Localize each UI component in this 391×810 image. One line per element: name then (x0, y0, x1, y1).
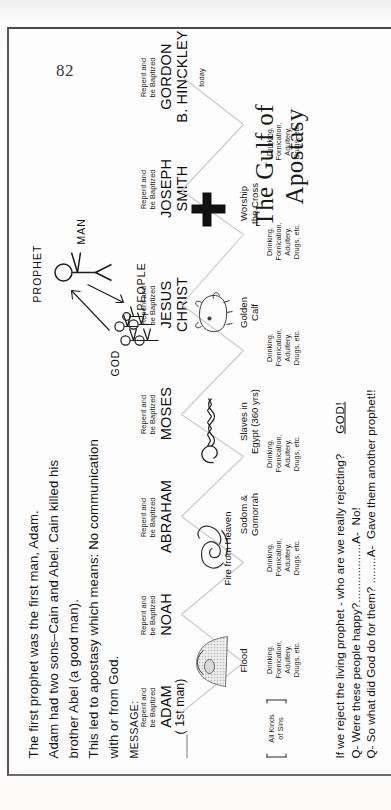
sins-line-3: Adultery, (283, 630, 292, 688)
prophet-name: MOSES (157, 374, 173, 452)
page-title-line1: The Gulf of (249, 36, 279, 226)
intro-line-4: This led to apostasy which means: No com… (83, 328, 103, 758)
sins-bracket-line2: of Sins (276, 704, 285, 752)
sins-line-2: Fornication, (274, 528, 283, 586)
all-kinds-of-sins-bracket: All Kinds of Sins (267, 704, 285, 752)
event-label-line1: Sodom & (237, 476, 248, 552)
sins-line-4: Drugs, etc. (292, 630, 301, 688)
repent-line-2: be Baptized (148, 678, 157, 736)
people-label: PEOPLE (135, 262, 146, 310)
event-label-line1: Flood (237, 630, 248, 690)
question-row-2: Q- So what did God do for them? ........… (362, 42, 378, 758)
page-title-line2: Apostasy (279, 36, 309, 204)
sins-list-1: Drinking, Fornication, Adultery, Drugs, … (265, 630, 301, 688)
prophet-name: JESUS (157, 266, 173, 342)
sins-line-4: Drugs, etc. (292, 318, 301, 376)
intro-line-3: brother Abel (a good man). (63, 328, 83, 758)
prophet-noah: NOAH (157, 576, 173, 652)
event-flood: Flood (237, 630, 248, 690)
page-title: The Gulf of Apostasy (249, 36, 308, 226)
repent-line-2: be Baptized (148, 48, 157, 106)
repent-label-noah: Repent and be Baptized (139, 586, 156, 644)
intro-line-5: with or from God. (103, 328, 123, 758)
sins-line-2: Fornication, (274, 630, 283, 688)
flood-illustration-icon (189, 630, 233, 690)
event-sodom-gomorrah: Sodom & Gomorrah (237, 476, 259, 552)
event-label-line1: Slaves in (237, 378, 248, 464)
prophet-name: ADAM (157, 668, 173, 744)
event-label-line1: Fire from Heaven (221, 492, 232, 604)
intro-line-1: The first prophet was the first man, Ada… (23, 328, 43, 758)
sins-line-3: Adultery, (283, 318, 292, 376)
sins-list-2: Drinking, Fornication, Adultery, Drugs, … (265, 528, 301, 586)
event-label-line1: Worship (237, 172, 248, 234)
repent-line-1: Repent and (139, 48, 148, 106)
question-2-dots: ........ (363, 557, 376, 586)
event-label-line2: Egypt (360 yrs) (248, 378, 259, 464)
prophet-label: PROPHET (31, 244, 42, 302)
intro-line-2: Adam had two sons–Cain and Abel. Cain ki… (43, 328, 63, 758)
sins-line-4: Drugs, etc. (292, 528, 301, 586)
question-intro: If we reject the living prophet - who ar… (332, 453, 345, 758)
event-label-line1: Golden (237, 282, 248, 342)
sins-line-2: Fornication, (274, 424, 283, 482)
repent-line-1: Repent and (139, 586, 148, 644)
repent-line-2: be Baptized (148, 160, 157, 218)
repent-label-adam: Repent and be Baptized (139, 678, 156, 736)
question-block: If we reject the living prophet - who ar… (331, 42, 378, 758)
prophet-moses: MOSES (157, 374, 173, 452)
god-label: GOD (109, 349, 120, 376)
page-frame: 82 The first prophet was the first man, … (7, 27, 391, 776)
sins-line-3: Adultery, (283, 424, 292, 482)
event-label-line2: Calf (248, 282, 259, 342)
repent-line-2: be Baptized (148, 385, 157, 443)
golden-calf-illustration-icon (189, 282, 233, 342)
prophet-name: ABRAHAM (157, 464, 173, 568)
repent-line-1: Repent and (139, 488, 148, 546)
question-2: Q- So what did God do for them? (363, 586, 376, 758)
cross-symbol-icon (191, 192, 225, 226)
prophet-name: JOSEPH (157, 150, 173, 226)
repent-label-moses: Repent and be Baptized (139, 385, 156, 443)
sins-list-3: Drinking, Fornication, Adultery, Drugs, … (265, 424, 301, 482)
sins-line-4: Drugs, etc. (292, 424, 301, 482)
sins-list-4: Drinking, Fornication, Adultery, Drugs, … (265, 318, 301, 376)
intro-paragraph: The first prophet was the first man, Ada… (23, 328, 123, 758)
man-label: MAN (75, 218, 86, 244)
scanned-page-background: 82 The first prophet was the first man, … (0, 0, 391, 810)
answer-1: A- No! (348, 507, 361, 543)
prophet-name: NOAH (157, 576, 173, 652)
god-answer: GOD! (332, 401, 345, 433)
question-row-1: Q- Were these people happy?.............… (347, 42, 363, 758)
event-fire-from-heaven: Fire from Heaven (221, 492, 232, 604)
question-intro-row: If we reject the living prophet - who ar… (331, 42, 347, 758)
question-1-dots: .................. (348, 543, 361, 602)
repent-line-2: be Baptized (148, 276, 157, 334)
sins-line-3: Adultery, (283, 528, 292, 586)
prophet-name: GORDON (157, 28, 173, 124)
message-label: MESSAGE: (127, 700, 139, 758)
sins-line-2: Fornication, (274, 318, 283, 376)
repent-line-2: be Baptized (148, 586, 157, 644)
repent-line-2: be Baptized (148, 488, 157, 546)
question-1: Q- Were these people happy? (348, 602, 361, 758)
event-label-line2: Gomorrah (248, 476, 259, 552)
repent-label-abraham: Repent and be Baptized (139, 488, 156, 546)
repent-line-1: Repent and (139, 678, 148, 736)
event-golden-calf: Golden Calf (237, 282, 259, 342)
slaves-in-egypt-illustration-icon (191, 392, 231, 468)
repent-line-1: Repent and (139, 385, 148, 443)
answer-2: A- Gave them another prophet!! (363, 389, 376, 557)
repent-label-gordon: Repent and be Baptized (139, 48, 156, 106)
prophet-abraham: ABRAHAM (157, 464, 173, 568)
event-slaves-in-egypt: Slaves in Egypt (360 yrs) (237, 378, 259, 464)
page-content-rotated: The first prophet was the first man, Ada… (9, 29, 391, 774)
